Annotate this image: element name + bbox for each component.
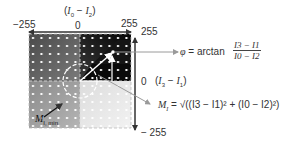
phase-formula: φ = arctan bbox=[180, 47, 225, 57]
fraction-denominator: I0 − I2 bbox=[233, 51, 261, 61]
paren-close: ) bbox=[183, 75, 186, 86]
operator: − bbox=[74, 5, 85, 16]
arctan-text: = arctan bbox=[186, 46, 225, 57]
min-modulation-label: MI, min bbox=[35, 114, 58, 128]
h-tick-min: −255 bbox=[13, 20, 36, 30]
horizontal-axis-label: (I0 − I2) bbox=[64, 6, 95, 20]
operator: − bbox=[165, 75, 176, 86]
fraction-numerator: I3 − I1 bbox=[233, 40, 261, 51]
v-tick-min: − 255 bbox=[141, 128, 166, 138]
sqrt-expression: = √((I3 − I1)² + (I0 − I2)²) bbox=[168, 99, 279, 110]
h-tick-zero: 0 bbox=[75, 21, 81, 31]
h-tick-max: 255 bbox=[121, 19, 138, 29]
paren-close: ) bbox=[92, 5, 95, 16]
phase-fraction: I3 − I1 I0 − I2 bbox=[233, 40, 261, 61]
modulation-formula: MI = √((I3 − I1)² + (I0 − I2)²) bbox=[158, 100, 279, 114]
v-tick-max: 255 bbox=[141, 27, 158, 37]
vertical-axis-label: (I3 − I1) bbox=[155, 76, 186, 90]
v-tick-zero: 0 bbox=[141, 77, 147, 87]
subscript: I, min bbox=[43, 120, 58, 126]
